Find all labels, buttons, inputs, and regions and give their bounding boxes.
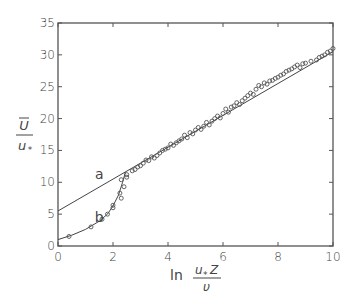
annotation-label-b: b <box>95 209 104 225</box>
x-tick-label: 8 <box>274 250 282 264</box>
data-point <box>122 185 126 189</box>
data-point <box>147 159 151 163</box>
x-axis-ticks: 0246810 <box>54 23 340 264</box>
x-tick-label: 4 <box>164 250 172 264</box>
y-axis-label: U u * <box>16 118 33 155</box>
x-label-denominator: υ <box>203 280 210 294</box>
data-point <box>304 61 308 65</box>
y-tick-label: 20 <box>40 112 55 126</box>
data-point <box>298 66 302 70</box>
data-point <box>119 178 123 182</box>
annotations: ab <box>95 166 104 225</box>
y-tick-label: 5 <box>47 207 55 221</box>
y-tick-label: 10 <box>40 175 55 189</box>
y-label-denominator: u <box>18 138 26 153</box>
y-tick-label: 25 <box>40 80 55 94</box>
x-tick-label: 6 <box>219 250 227 264</box>
y-label-numerator: U <box>19 118 29 133</box>
x-tick-label: 0 <box>54 250 62 264</box>
data-point <box>254 87 258 91</box>
x-tick-label: 10 <box>325 250 340 264</box>
data-point <box>119 196 123 200</box>
y-tick-label: 35 <box>40 16 55 30</box>
y-tick-label: 30 <box>40 48 55 62</box>
data-point <box>125 173 129 177</box>
y-label-subscript: * <box>28 145 33 155</box>
x-label-numerator: u <box>195 263 203 277</box>
y-tick-label: 15 <box>40 143 55 157</box>
x-axis-label: ln u * Z υ <box>170 263 221 294</box>
series-line-a <box>58 52 333 211</box>
x-label-prefix: ln <box>170 267 183 283</box>
x-tick-label: 2 <box>109 250 117 264</box>
data-point <box>309 59 313 63</box>
chart: 05101520253035 0246810 ab U u * ln u * Z… <box>0 0 354 301</box>
annotation-label-a: a <box>95 166 104 182</box>
x-label-numerator-var: Z <box>209 263 219 277</box>
